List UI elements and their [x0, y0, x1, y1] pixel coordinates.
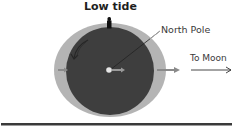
- person-figure-icon: [107, 17, 112, 29]
- to-moon-arrow-icon: [191, 67, 231, 73]
- diagram-graphics: [0, 0, 241, 132]
- low-tide-label: Low tide: [84, 0, 137, 13]
- to-moon-label: To Moon: [190, 53, 227, 63]
- baseline-rule: [1, 123, 232, 126]
- north-pole-label: North Pole: [161, 24, 210, 35]
- tide-diagram: Low tide North Pole To Moon: [0, 0, 241, 132]
